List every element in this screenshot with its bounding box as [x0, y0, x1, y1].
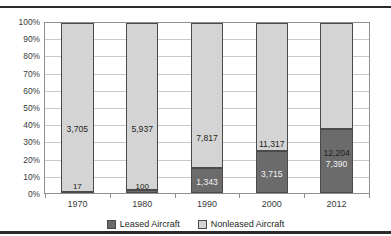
legend-swatch-icon [198, 220, 207, 229]
bottom-divider-rule [0, 231, 391, 234]
y-tick-label: 20% [0, 155, 40, 165]
bar-segment-nonleased[interactable] [256, 23, 288, 151]
bar-segment-leased[interactable] [61, 191, 93, 193]
bar-segment-nonleased[interactable] [191, 23, 223, 168]
legend-swatch-icon [107, 220, 116, 229]
x-tick-label: 1980 [132, 199, 152, 209]
y-tick-label: 90% [0, 34, 40, 44]
bar-segment-leased[interactable] [126, 190, 158, 193]
legend-item[interactable]: Nonleased Aircraft [198, 219, 285, 229]
legend-label: Leased Aircraft [120, 219, 180, 229]
legend-label: Nonleased Aircraft [211, 219, 285, 229]
bar-segment-nonleased[interactable] [61, 23, 93, 192]
bar-stack [126, 23, 158, 193]
y-tick-label: 50% [0, 103, 40, 113]
bar-group[interactable]: 11,3173,715 [256, 23, 288, 193]
x-tick [369, 194, 370, 198]
bar-stack [320, 23, 352, 193]
bar-segment-leased[interactable] [191, 168, 223, 193]
bar-group[interactable]: 12,2047,390 [320, 23, 352, 193]
bar-group[interactable]: 3,70517 [61, 23, 93, 193]
x-tick [239, 194, 240, 198]
bar-group[interactable]: 5,937100 [126, 23, 158, 193]
bar-segment-leased[interactable] [320, 129, 352, 193]
y-tick-label: 70% [0, 69, 40, 79]
bar-segment-nonleased[interactable] [126, 23, 158, 190]
y-tick-label: 80% [0, 51, 40, 61]
y-tick-label: 60% [0, 86, 40, 96]
y-tick-label: 40% [0, 120, 40, 130]
bar-group[interactable]: 7,8171,343 [191, 23, 223, 193]
x-tick [110, 194, 111, 198]
bar-stack [191, 23, 223, 193]
x-axis: 19701980199020002012 [45, 194, 369, 216]
bar-stack [256, 23, 288, 193]
bar-stack [61, 23, 93, 193]
bar-segment-nonleased[interactable] [320, 23, 352, 129]
x-tick-label: 1970 [67, 199, 87, 209]
y-tick-label: 0% [0, 189, 40, 199]
y-tick-label: 10% [0, 172, 40, 182]
x-tick-label: 1990 [197, 199, 217, 209]
y-tick-label: 30% [0, 137, 40, 147]
chart-legend: Leased AircraftNonleased Aircraft [0, 217, 391, 231]
bar-segment-leased[interactable] [256, 151, 288, 193]
legend-item[interactable]: Leased Aircraft [107, 219, 180, 229]
y-tick-label: 100% [0, 17, 40, 27]
x-tick [304, 194, 305, 198]
x-tick-label: 2012 [327, 199, 347, 209]
title-divider-rule [0, 6, 391, 8]
chart-canvas: 0%10%20%30%40%50%60%70%80%90%100% 3,7051… [0, 10, 391, 228]
y-axis: 0%10%20%30%40%50%60%70%80%90%100% [0, 22, 40, 194]
x-tick-label: 2000 [262, 199, 282, 209]
figure-title: Exhibit 4: Growth of Leased Aircraft 197… [4, 0, 344, 5]
x-tick [175, 194, 176, 198]
x-tick [45, 194, 46, 198]
bar-series-layer: 3,705175,9371007,8171,34311,3173,71512,2… [45, 23, 369, 193]
